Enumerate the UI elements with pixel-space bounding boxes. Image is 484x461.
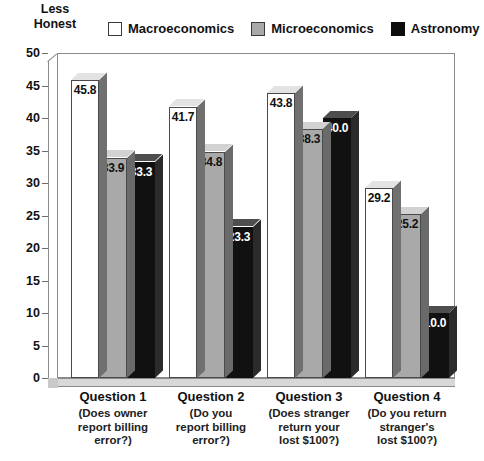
x-axis-category-label: Question 4 [351,389,463,405]
bar-value-label: 41.7 [169,110,197,124]
y-tick-label: 15 [26,274,40,288]
bar-value-label: 43.8 [267,96,295,110]
y-tick-label: 50 [26,46,40,60]
legend: MacroeconomicsMicroeconomicsAstronomy [108,21,484,36]
legend-label: Macroeconomics [128,21,234,36]
x-axis-sublabel-line: report billing [155,421,267,435]
bar-macro-q3[interactable]: 43.8 [267,93,295,378]
bar-value-label: 45.8 [71,83,99,97]
bar-3d-side [197,100,205,378]
x-axis-sublabel-line: lost $100?) [253,434,365,448]
x-axis-sublabel-line: error?) [155,434,267,448]
bar-face [267,93,295,378]
y-tick-label: 35 [26,144,40,158]
legend-label: Microeconomics [271,21,374,36]
bar-3d-side [449,306,457,378]
x-axis-sublabel-line: (Do you return [351,407,463,421]
bar-value-label: 29.2 [365,191,393,205]
bar-3d-side [323,122,331,378]
bar-3d-side [99,73,107,378]
x-axis-category-label: Question 1 [57,389,169,405]
x-axis-category-label: Question 3 [253,389,365,405]
bar-face [71,80,99,378]
bar-3d-side [351,111,359,378]
x-axis-category-sublabel: (Does ownerreport billingerror?) [57,407,169,448]
plot-3d-left-wall [48,61,57,378]
y-axis-title-line1: Less [41,2,70,16]
x-axis-sublabel-line: (Does stranger [253,407,365,421]
bar-3d-side [421,207,429,378]
bar-3d-side [393,181,401,378]
y-tick-label: 30 [26,176,40,190]
bar-face [365,188,393,378]
bars-layer: 45.833.933.341.734.823.343.838.340.029.2… [57,53,455,378]
plot-3d-base-corner [48,378,58,388]
y-tick-label: 45 [26,79,40,93]
bar-macro-q2[interactable]: 41.7 [169,107,197,378]
bar-3d-side [127,151,135,378]
plot-3d-base-shelf [48,378,455,387]
legend-item-macroeconomics[interactable]: Macroeconomics [108,21,234,36]
x-axis-sublabel-line: (Does owner [57,407,169,421]
x-axis-group-q3: Question 3(Does strangerreturn yourlost … [253,389,365,448]
x-axis-sublabel-line: lost $100?) [351,434,463,448]
y-tick-label: 5 [33,339,40,353]
x-axis-group-q4: Question 4(Do you returnstranger'slost $… [351,389,463,448]
y-tick-label: 10 [26,306,40,320]
legend-item-microeconomics[interactable]: Microeconomics [251,21,374,36]
bar-macro-q4[interactable]: 29.2 [365,188,393,378]
x-axis-category-sublabel: (Do youreport billingerror?) [155,407,267,448]
bar-3d-side [253,220,261,378]
y-tick-label: 40 [26,111,40,125]
legend-item-astronomy[interactable]: Astronomy [391,21,480,36]
black-swatch-icon [391,22,405,36]
x-axis-group-q1: Question 1(Does ownerreport billingerror… [57,389,169,448]
x-axis-category-sublabel: (Do you returnstranger'slost $100?) [351,407,463,448]
x-axis-sublabel-line: error?) [57,434,169,448]
bar-macro-q1[interactable]: 45.8 [71,80,99,378]
x-axis-sublabel-line: (Do you [155,407,267,421]
x-axis-labels: Question 1(Does ownerreport billingerror… [57,389,455,461]
x-axis-sublabel-line: return your [253,421,365,435]
x-axis-category-label: Question 2 [155,389,267,405]
bar-3d-side [225,145,233,378]
gray-swatch-icon [251,22,265,36]
bar-3d-side [295,86,303,378]
x-axis-sublabel-line: report billing [57,421,169,435]
y-tick-label: 20 [26,241,40,255]
x-axis-sublabel-line: stranger's [351,421,463,435]
y-axis: 05101520253035404550 [0,0,40,461]
y-axis-title-line2: Honest [34,17,76,31]
legend-label: Astronomy [411,21,480,36]
bar-face [169,107,197,378]
y-tick-label: 0 [33,371,40,385]
white-swatch-icon [108,22,122,36]
bar-3d-side [155,155,163,378]
x-axis-group-q2: Question 2(Do youreport billingerror?) [155,389,267,448]
x-axis-category-sublabel: (Does strangerreturn yourlost $100?) [253,407,365,448]
y-tick-label: 25 [26,209,40,223]
